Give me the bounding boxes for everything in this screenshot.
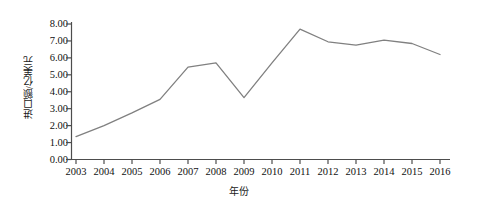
plot-area xyxy=(0,0,478,208)
x-axis-ticks xyxy=(76,160,440,165)
line-chart: 进口额/亿美元 8.00 7.00 6.00 5.00 4.00 3.00 2.… xyxy=(0,0,478,208)
data-series-line xyxy=(76,29,440,137)
y-axis-ticks xyxy=(66,24,72,160)
